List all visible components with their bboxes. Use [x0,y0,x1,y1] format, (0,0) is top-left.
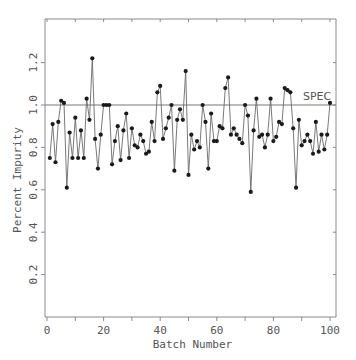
data-point [181,118,185,122]
data-point [319,133,323,137]
data-point [65,186,69,190]
data-point [291,126,295,130]
data-point [76,156,80,160]
data-point [167,116,171,120]
data-point [203,120,207,124]
data-point [311,152,315,156]
data-point [198,145,202,149]
data-point [51,122,55,126]
data-point [138,133,142,137]
data-point [288,90,292,94]
data-point [300,143,304,147]
data-point [118,158,122,162]
y-tick-label: 1.0 [27,95,40,115]
data-point [232,126,236,130]
data-point [62,101,66,105]
data-point [99,133,103,137]
x-tick-label: 80 [267,324,280,337]
data-point [206,167,210,171]
data-point [226,75,230,79]
data-point [79,128,83,132]
x-tick-label: 40 [154,324,167,337]
data-point [73,116,77,120]
data-point [201,103,205,107]
data-point [229,133,233,137]
data-point [93,137,97,141]
y-axis-title: Percent Impurity [11,127,24,233]
chart-svg: 020406080100 0.20.40.60.81.01.2 Batch Nu… [0,0,356,360]
data-point [254,97,258,101]
data-point [82,156,86,160]
data-point [297,118,301,122]
y-tick-label: 0.2 [27,265,40,285]
data-point [85,97,89,101]
data-point [223,86,227,90]
data-point [268,97,272,101]
data-point [178,107,182,111]
data-point [237,137,241,141]
data-point [172,169,176,173]
x-tick-label: 60 [210,324,223,337]
data-point [322,147,326,151]
x-tick-label: 20 [97,324,110,337]
y-tick-label: 0.8 [27,137,40,157]
data-point [124,111,128,115]
data-point [260,133,264,137]
data-point [325,133,329,137]
data-point [53,160,57,164]
data-point [152,139,156,143]
data-point [215,139,219,143]
data-point [195,139,199,143]
data-point [251,128,255,132]
data-point [121,128,125,132]
data-point [155,90,159,94]
data-point [249,190,253,194]
data-point [314,120,318,124]
data-point [116,124,120,128]
impurity-chart: 020406080100 0.20.40.60.81.01.2 Batch Nu… [0,0,356,360]
data-point [263,145,267,149]
data-point [308,139,312,143]
data-point [189,133,193,137]
impurity-line [50,58,330,192]
data-point [220,126,224,130]
data-point [158,84,162,88]
y-tick-label: 1.2 [27,53,40,73]
y-tick-label: 0.6 [27,180,40,200]
data-point [246,114,250,118]
data-point [127,156,131,160]
y-axis: 0.20.40.60.81.01.2 [27,53,336,285]
plot-frame [45,19,336,317]
data-point [87,118,91,122]
x-tick-label: 0 [44,324,51,337]
data-point [135,145,139,149]
data-point [90,56,94,60]
data-point [302,139,306,143]
data-point [317,150,321,154]
data-point [150,120,154,124]
data-point [175,118,179,122]
data-point [161,137,165,141]
data-point [294,186,298,190]
data-point [240,141,244,145]
data-point [305,133,309,137]
data-point [186,173,190,177]
data-point [192,147,196,151]
data-point [48,156,52,160]
data-point [107,103,111,107]
data-point [70,156,74,160]
data-point [235,133,239,137]
data-point [147,150,151,154]
data-point [56,120,60,124]
data-point [184,69,188,73]
spec-label: SPEC [303,90,332,103]
data-point [280,122,284,126]
data-point [271,139,275,143]
data-point [209,111,213,115]
data-point [113,139,117,143]
data-point [169,103,173,107]
data-point [96,167,100,171]
x-tick-label: 100 [320,324,340,337]
data-point [110,162,114,166]
data-point [164,126,168,130]
